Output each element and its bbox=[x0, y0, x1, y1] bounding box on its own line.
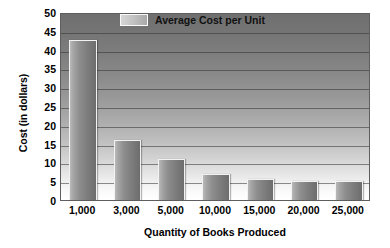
x-axis-tick-label: 3,000 bbox=[104, 204, 148, 217]
bar bbox=[335, 181, 362, 200]
x-axis-tick-label: 5,000 bbox=[149, 204, 193, 217]
bar bbox=[69, 40, 96, 200]
x-axis-tick-label: 10,000 bbox=[193, 204, 237, 217]
bar-slot bbox=[150, 159, 194, 200]
y-axis-tick-label: 0 bbox=[30, 196, 56, 207]
y-axis-tick-label: 45 bbox=[30, 27, 56, 38]
y-axis-tick-label: 50 bbox=[30, 8, 56, 19]
x-axis-tick-label: 15,000 bbox=[237, 204, 281, 217]
bar bbox=[291, 181, 318, 200]
y-axis-title: Cost (in dollars) bbox=[17, 38, 29, 188]
bar bbox=[158, 159, 185, 200]
x-axis-tick-label: 1,000 bbox=[60, 204, 104, 217]
bar bbox=[247, 179, 274, 200]
bar-slot bbox=[327, 181, 370, 200]
y-axis-tick-label: 5 bbox=[30, 177, 56, 188]
y-axis-tick-label: 15 bbox=[30, 139, 56, 150]
bar-slot bbox=[105, 140, 149, 200]
bar bbox=[114, 140, 141, 200]
bar-slot bbox=[238, 179, 282, 200]
legend: Average Cost per Unit bbox=[120, 14, 265, 26]
y-axis-tick-label: 35 bbox=[30, 64, 56, 75]
bar-slot bbox=[282, 181, 326, 200]
y-axis-tick-label: 40 bbox=[30, 45, 56, 56]
x-axis-tick-labels: 1,0003,0005,00010,00015,00020,00025,000 bbox=[60, 204, 370, 220]
legend-label: Average Cost per Unit bbox=[155, 14, 265, 26]
bar-chart-figure: Cost (in dollars) 05101520253035404550 A… bbox=[0, 0, 390, 248]
y-axis-tick-label: 20 bbox=[30, 121, 56, 132]
y-axis-tick-label: 25 bbox=[30, 102, 56, 113]
bars-group bbox=[61, 14, 369, 200]
plot-area bbox=[60, 13, 370, 201]
bar-slot bbox=[194, 174, 238, 200]
x-axis-tick-label: 25,000 bbox=[326, 204, 370, 217]
x-axis-tick-label: 20,000 bbox=[281, 204, 325, 217]
y-axis-tick-label: 10 bbox=[30, 158, 56, 169]
bar-slot bbox=[61, 40, 105, 200]
y-axis-tick-label: 30 bbox=[30, 83, 56, 94]
y-axis-tick-labels: 05101520253035404550 bbox=[30, 13, 56, 201]
x-axis-title: Quantity of Books Produced bbox=[60, 226, 370, 238]
bar bbox=[202, 174, 229, 200]
legend-swatch-icon bbox=[120, 14, 148, 26]
